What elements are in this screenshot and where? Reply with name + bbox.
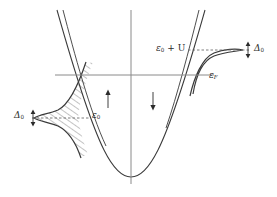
label-delta0-upper-subscript: 0 (261, 47, 265, 53)
label-epsilon0: ε0 (92, 111, 100, 121)
spin-down-arrow (150, 92, 155, 111)
figure-canvas (0, 0, 277, 197)
spin-up-arrow (105, 90, 110, 109)
label-epsilon0-plus-u: ε0 + U (156, 44, 185, 54)
label-epsilon0-plus-u-tail: + U (164, 43, 185, 53)
label-delta0-lower: Δ0 (14, 111, 24, 121)
occupied-resonance-fill (34, 62, 93, 157)
right-band-outer-line (166, 10, 199, 128)
schematic-svg (0, 0, 277, 197)
label-epsilon-f: εF (209, 71, 218, 81)
label-epsilon-f-subscript: F (214, 74, 218, 80)
label-delta0-upper: Δ0 (254, 44, 264, 54)
label-epsilon0-subscript: 0 (97, 114, 101, 120)
label-delta0-lower-subscript: 0 (21, 114, 25, 120)
delta-0-upper-double-arrow (246, 42, 251, 59)
